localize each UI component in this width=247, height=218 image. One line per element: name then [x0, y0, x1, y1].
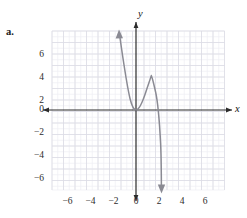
- y-tick-label--2: −2: [24, 127, 44, 137]
- y-tick-label-6: 6: [27, 49, 44, 59]
- x-tick-label-4: 4: [175, 196, 189, 206]
- x-tick-label-0: 0: [129, 196, 143, 206]
- x-axis-arrow-right: [226, 108, 232, 113]
- x-tick-label--6: −6: [59, 196, 76, 206]
- x-tick-label-6: 6: [198, 196, 212, 206]
- x-tick-label-2: 2: [152, 196, 166, 206]
- figure-container: a.: [0, 0, 247, 218]
- x-tick-label--2: −2: [105, 196, 122, 206]
- y-tick-label--6: −6: [24, 173, 44, 183]
- y-tick-label-0: 0: [27, 104, 44, 114]
- x-tick-label--4: −4: [82, 196, 99, 206]
- y-axis-arrow-top: [134, 22, 139, 28]
- y-axis-label: y: [138, 8, 143, 19]
- curve-arrow-down: [158, 185, 165, 194]
- y-tick-label--4: −4: [24, 150, 44, 160]
- y-tick-label-4: 4: [27, 72, 44, 82]
- x-axis-label: x: [235, 103, 240, 114]
